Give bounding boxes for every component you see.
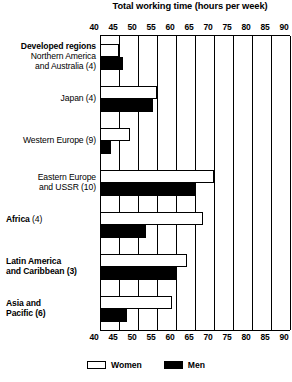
- bar-japan-women: [100, 86, 157, 99]
- category-label-line: Developed regions: [0, 41, 96, 51]
- bar-western-europe-women: [100, 128, 130, 141]
- category-label-line: Eastern Europe: [0, 172, 96, 182]
- gridline-85: [271, 36, 272, 330]
- bar-western-europe-men: [100, 141, 111, 154]
- category-label-japan: Japan (4): [0, 93, 96, 103]
- bar-latin-america-caribbean-women: [100, 254, 187, 267]
- category-label-line: Pacific (6): [6, 308, 96, 318]
- category-label-developed-regions: Developed regionsNorthern Americaand Aus…: [0, 41, 96, 72]
- legend-item-men[interactable]: Men: [164, 360, 205, 370]
- chart-legend: WomenMen: [0, 358, 292, 372]
- bar-africa-women: [100, 212, 203, 225]
- x-tick-75: 75: [222, 22, 233, 32]
- category-label-line: Asia and: [6, 298, 96, 308]
- x-tick-65: 65: [184, 22, 195, 32]
- category-label-line: and Caribbean (3): [6, 266, 96, 276]
- gridline-90: [290, 36, 291, 330]
- x-tick-50: 50: [127, 22, 138, 32]
- axis-line-bottom: [100, 330, 290, 331]
- x-tick-50: 50: [127, 332, 138, 342]
- bar-eastern-europe-ussr-men: [100, 183, 195, 196]
- category-label-line: Japan (4): [0, 93, 96, 103]
- bar-developed-regions-men: [100, 57, 123, 70]
- chart-title: Total working time (hours per week): [90, 1, 290, 11]
- plot-area: [100, 36, 290, 330]
- x-tick-45: 45: [108, 22, 119, 32]
- x-tick-65: 65: [184, 332, 195, 342]
- x-tick-70: 70: [203, 332, 214, 342]
- bar-japan-men: [100, 99, 153, 112]
- category-label-africa: Africa (4): [0, 214, 96, 224]
- gridline-80: [252, 36, 253, 330]
- category-label-western-europe: Western Europe (9): [0, 135, 96, 145]
- category-label-line: Latin America: [6, 256, 96, 266]
- bar-developed-regions-women: [100, 44, 119, 57]
- category-label-asia-pacific: Asia andPacific (6): [0, 298, 96, 318]
- x-tick-85: 85: [260, 332, 271, 342]
- x-tick-55: 55: [146, 332, 157, 342]
- x-tick-75: 75: [222, 332, 233, 342]
- gridline-65: [195, 36, 196, 330]
- category-label-line: and Australia (4): [0, 61, 96, 71]
- x-tick-60: 60: [165, 22, 176, 32]
- category-label-latin-america-caribbean: Latin Americaand Caribbean (3): [0, 256, 96, 276]
- legend-label-women: Women: [111, 360, 142, 370]
- x-tick-40: 40: [89, 332, 100, 342]
- category-label-line: and USSR (10): [0, 182, 96, 192]
- x-axis-ticks-bottom: 4045505560657075808590: [0, 332, 292, 344]
- x-tick-90: 90: [279, 332, 290, 342]
- legend-label-men: Men: [188, 360, 205, 370]
- legend-swatch-men: [164, 361, 183, 369]
- bar-eastern-europe-ussr-women: [100, 170, 214, 183]
- x-tick-55: 55: [146, 22, 157, 32]
- category-label-line: Western Europe (9): [0, 135, 96, 145]
- chart-container: Total working time (hours per week) 4045…: [0, 0, 292, 382]
- x-tick-90: 90: [279, 22, 290, 32]
- x-axis-ticks-top: 4045505560657075808590: [0, 22, 292, 34]
- x-tick-80: 80: [241, 332, 252, 342]
- x-tick-80: 80: [241, 22, 252, 32]
- legend-swatch-women: [87, 361, 106, 369]
- category-label-count: (4): [30, 214, 43, 224]
- bar-latin-america-caribbean-men: [100, 267, 176, 280]
- bar-asia-pacific-men: [100, 309, 127, 322]
- bar-asia-pacific-women: [100, 296, 172, 309]
- gridline-75: [233, 36, 234, 330]
- category-label-eastern-europe-ussr: Eastern Europeand USSR (10): [0, 172, 96, 192]
- x-tick-45: 45: [108, 332, 119, 342]
- category-label-line: Northern America: [0, 51, 96, 61]
- x-tick-85: 85: [260, 22, 271, 32]
- x-tick-60: 60: [165, 332, 176, 342]
- bar-africa-men: [100, 225, 146, 238]
- legend-item-women[interactable]: Women: [87, 360, 142, 370]
- x-tick-70: 70: [203, 22, 214, 32]
- x-tick-40: 40: [89, 22, 100, 32]
- gridline-70: [214, 36, 215, 330]
- category-label-line: Africa: [6, 214, 30, 224]
